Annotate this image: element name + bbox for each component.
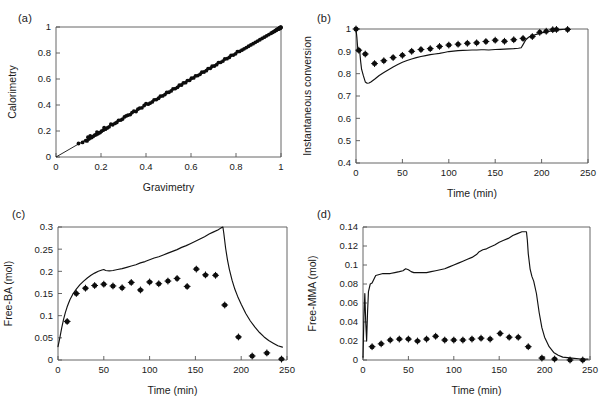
- data-point: [110, 283, 117, 290]
- y-tick-label: 0.4: [38, 99, 51, 110]
- y-axis-title: Instantaneous conversion: [303, 36, 313, 156]
- x-axis-title: Time (min): [447, 187, 497, 199]
- panel-c-plot: 05010015020025000.050.10.150.20.250.3Tim…: [0, 200, 300, 399]
- data-point: [478, 335, 485, 342]
- x-tick-label: 50: [403, 364, 414, 375]
- y-tick-label: 0.8: [338, 68, 351, 79]
- x-tick-label: 200: [537, 364, 553, 375]
- data-point: [423, 336, 430, 343]
- y-tick-label: 0.8: [38, 47, 51, 58]
- x-tick-label: 50: [397, 167, 408, 178]
- figure-container: (a) 00.20.40.60.8100.20.40.60.81Gravimet…: [0, 0, 603, 399]
- data-point: [441, 337, 448, 344]
- series-points-experimental: [369, 330, 586, 363]
- data-point: [128, 279, 135, 286]
- panel-b-plot: 0501001502002500.40.50.60.70.80.91Time (…: [303, 0, 603, 200]
- x-tick-label: 100: [142, 364, 158, 375]
- data-point: [501, 38, 508, 45]
- data-point: [399, 52, 406, 59]
- data-point: [137, 287, 144, 294]
- panel-d: (d) 05010015020025000.020.040.060.080.10…: [303, 200, 603, 399]
- data-point: [193, 266, 200, 273]
- y-tick-label: 0.5: [338, 135, 351, 146]
- x-tick-label: 1: [278, 161, 283, 172]
- x-tick-label: 200: [534, 167, 550, 178]
- y-tick-label: 0.02: [340, 335, 359, 346]
- panel-c-label: (c): [12, 208, 25, 220]
- x-axis-title: Time (min): [452, 384, 502, 396]
- x-tick-label: 150: [487, 167, 503, 178]
- data-point: [408, 48, 415, 55]
- data-point: [418, 46, 425, 53]
- data-point: [371, 60, 378, 67]
- data-point: [497, 330, 504, 337]
- y-tick-label: 0.25: [35, 244, 54, 255]
- data-point: [119, 284, 126, 291]
- y-tick-label: 0: [48, 354, 53, 365]
- x-tick-label: 50: [99, 364, 110, 375]
- data-point: [278, 356, 285, 363]
- x-tick-label: 0.6: [184, 161, 197, 172]
- data-point: [459, 337, 466, 344]
- data-point: [155, 280, 162, 287]
- x-tick-label: 250: [582, 364, 598, 375]
- panel-a: (a) 00.20.40.60.8100.20.40.60.81Gravimet…: [0, 0, 300, 200]
- y-tick-label: 0.4: [338, 157, 351, 168]
- x-axis-title: Gravimetry: [143, 181, 195, 193]
- x-tick-label: 0: [353, 167, 358, 178]
- data-point: [427, 45, 434, 52]
- y-tick-label: 0.6: [38, 73, 51, 84]
- x-tick-label: 150: [187, 364, 203, 375]
- x-tick-label: 200: [233, 364, 249, 375]
- data-point: [506, 334, 513, 341]
- data-point: [473, 39, 480, 46]
- data-point: [579, 357, 586, 364]
- y-tick-label: 0.04: [340, 316, 359, 327]
- y-tick-label: 1: [46, 21, 51, 32]
- data-point: [525, 343, 532, 350]
- x-tick-label: 250: [279, 364, 295, 375]
- data-point: [212, 272, 219, 279]
- data-point: [487, 336, 494, 343]
- y-tick-label: 0.7: [338, 90, 351, 101]
- axes-frame: [58, 227, 287, 360]
- data-point: [235, 334, 242, 341]
- data-point: [174, 275, 181, 282]
- data-point: [100, 281, 107, 288]
- data-point: [263, 350, 270, 357]
- y-axis-title: Free-BA (mol): [2, 261, 14, 326]
- panel-d-plot: 05010015020025000.020.040.060.080.10.120…: [303, 200, 603, 399]
- x-tick-label: 0: [360, 364, 365, 375]
- data-point: [184, 283, 191, 290]
- data-point: [455, 41, 462, 48]
- y-tick-label: 0: [353, 354, 358, 365]
- data-point: [464, 40, 471, 47]
- y-tick-label: 0.6: [338, 113, 351, 124]
- y-tick-label: 0.06: [340, 297, 359, 308]
- y-tick-label: 0.12: [340, 240, 359, 251]
- panel-b-label: (b): [317, 12, 331, 24]
- x-tick-label: 0.4: [139, 161, 152, 172]
- panel-b: (b) 0501001502002500.40.50.60.70.80.91Ti…: [303, 0, 603, 200]
- data-point: [510, 36, 517, 43]
- data-point: [77, 142, 81, 146]
- x-tick-label: 0.2: [94, 161, 107, 172]
- y-tick-label: 0.15: [35, 288, 54, 299]
- x-tick-label: 0.8: [229, 161, 242, 172]
- series-line-model: [363, 232, 588, 359]
- data-point: [82, 285, 89, 292]
- series-points-calorimetry-vs-gravimetry: [77, 25, 283, 145]
- data-point: [436, 43, 443, 50]
- x-tick-label: 100: [446, 364, 462, 375]
- y-tick-label: 0.1: [40, 310, 53, 321]
- y-axis-title: Free-MMA (mol): [306, 256, 318, 332]
- data-point: [64, 318, 71, 325]
- data-point: [221, 302, 228, 309]
- panel-a-label: (a): [18, 12, 32, 24]
- data-point: [165, 278, 172, 285]
- data-point: [445, 42, 452, 49]
- y-tick-label: 0: [46, 151, 51, 162]
- data-point: [469, 336, 476, 343]
- data-point: [405, 336, 412, 343]
- data-point: [538, 355, 545, 362]
